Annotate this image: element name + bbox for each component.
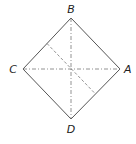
vertex-label-c: C xyxy=(9,63,17,76)
folded-square-diagram: B A D C xyxy=(0,0,136,144)
vertex-label-d: D xyxy=(67,123,75,136)
vertex-label-b: B xyxy=(67,3,75,16)
vertex-label-a: A xyxy=(123,63,132,76)
